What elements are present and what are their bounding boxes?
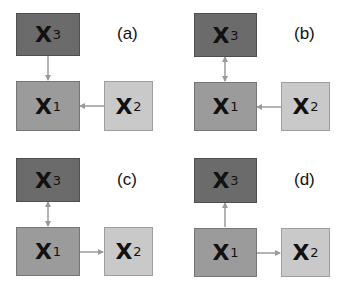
node-sub: 3: [53, 173, 61, 188]
node-x2-b: X2: [281, 82, 330, 131]
node-x2-c: X2: [104, 227, 153, 276]
node-x3-d: X3: [194, 158, 257, 203]
node-var: X: [115, 239, 132, 264]
node-sub: 1: [230, 99, 238, 114]
panel-label-c: (c): [117, 170, 137, 190]
node-var: X: [35, 239, 52, 264]
node-x3-a: X3: [16, 13, 80, 56]
node-sub: 2: [310, 99, 318, 114]
node-x1-c: X1: [16, 227, 80, 276]
node-x1-d: X1: [194, 228, 257, 277]
node-sub: 2: [310, 245, 318, 260]
node-var: X: [35, 168, 52, 193]
node-sub: 1: [53, 99, 61, 114]
node-x1-b: X1: [194, 82, 257, 131]
node-var: X: [292, 240, 309, 265]
node-x3-c: X3: [16, 158, 80, 202]
node-x3-b: X3: [194, 13, 257, 57]
node-x1-a: X1: [16, 81, 80, 131]
node-sub: 1: [230, 245, 238, 260]
node-var: X: [212, 240, 229, 265]
node-x2-a: X2: [104, 81, 153, 131]
node-var: X: [212, 168, 229, 193]
node-var: X: [292, 94, 309, 119]
node-sub: 3: [53, 27, 61, 42]
node-sub: 3: [230, 173, 238, 188]
panel-label-d: (d): [294, 170, 315, 190]
node-var: X: [115, 94, 132, 119]
node-sub: 2: [133, 244, 141, 259]
panel-label-a: (a): [117, 24, 138, 44]
node-var: X: [35, 22, 52, 47]
node-sub: 3: [230, 28, 238, 43]
node-var: X: [35, 94, 52, 119]
node-var: X: [212, 23, 229, 48]
node-var: X: [212, 94, 229, 119]
panel-label-b: (b): [294, 24, 315, 44]
node-sub: 2: [133, 99, 141, 114]
node-x2-d: X2: [281, 228, 330, 277]
node-sub: 1: [53, 244, 61, 259]
